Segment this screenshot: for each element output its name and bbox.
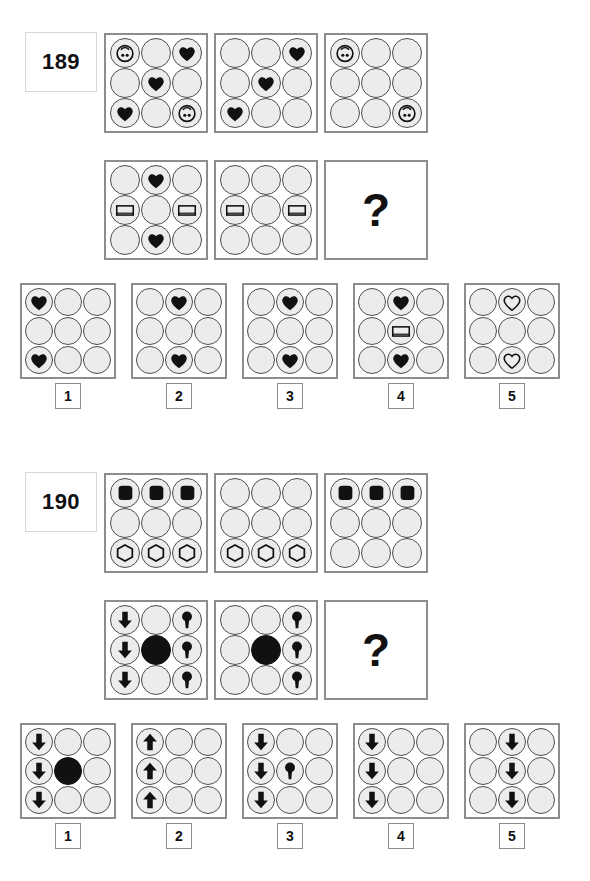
matrix-cell [83, 287, 112, 316]
arrow-down-icon [28, 760, 50, 782]
cell-circle-empty [220, 165, 250, 195]
matrix-cell [109, 38, 140, 68]
matrix-cell [282, 195, 313, 225]
heart-icon [224, 102, 246, 124]
matrix-cell [109, 508, 140, 538]
cell-circle-empty [165, 317, 193, 345]
answer-option-2[interactable] [131, 283, 227, 379]
answer-option-5[interactable] [464, 723, 560, 819]
cell-circle-empty [165, 757, 193, 785]
cell-circle-rect-white [282, 195, 312, 225]
option-number-5[interactable]: 5 [499, 823, 525, 849]
option-number-2[interactable]: 2 [166, 823, 192, 849]
cell-circle-empty [251, 225, 281, 255]
option-number-4[interactable]: 4 [388, 823, 414, 849]
matrix-cell [83, 756, 112, 785]
matrix-cell [172, 665, 203, 695]
cell-circle-empty [361, 538, 391, 568]
cell-circle-heart-white [498, 288, 526, 316]
cell-grid [357, 727, 445, 815]
matrix-cell [194, 287, 223, 316]
option-number-1[interactable]: 1 [55, 823, 81, 849]
cell-circle-empty [358, 288, 386, 316]
cell-circle-empty [282, 478, 312, 508]
answer-option-2[interactable] [131, 723, 227, 819]
answer-option-3[interactable] [242, 283, 338, 379]
answer-option-1[interactable] [20, 283, 116, 379]
matrix-cell [83, 316, 112, 345]
matrix-cell [386, 316, 415, 345]
option-number-3[interactable]: 3 [277, 823, 303, 849]
cell-circle-empty [172, 508, 202, 538]
matrix-panel-r2c1 [104, 160, 208, 260]
answer-option-4[interactable] [353, 723, 449, 819]
option-number-2[interactable]: 2 [166, 383, 192, 409]
matrix-cell [24, 287, 53, 316]
cell-circle-lollipop [282, 605, 312, 635]
cell-circle-empty [83, 786, 111, 814]
cell-circle-empty [54, 317, 82, 345]
cell-circle-hex-white [172, 538, 202, 568]
cell-grid [109, 478, 203, 568]
rectangle-outline-icon [176, 199, 198, 221]
heart-icon [145, 229, 167, 251]
matrix-cell [194, 727, 223, 756]
matrix-cell [392, 68, 423, 98]
cell-circle-empty [361, 38, 391, 68]
cell-circle-disc-black [141, 635, 171, 665]
matrix-cell [275, 727, 304, 756]
matrix-cell [140, 635, 171, 665]
rectangle-outline-icon [390, 320, 412, 342]
matrix-cell [357, 316, 386, 345]
cell-circle-hex-white [220, 538, 250, 568]
matrix-cell [172, 508, 203, 538]
matrix-cell [250, 508, 281, 538]
cell-circle-empty [54, 346, 82, 374]
cell-circle-empty [172, 165, 202, 195]
option-number-3[interactable]: 3 [277, 383, 303, 409]
cell-circle-heart-black [387, 346, 415, 374]
cell-circle-disc-black [54, 757, 82, 785]
matrix-cell [416, 287, 445, 316]
question-mark: ? [362, 627, 390, 673]
matrix-cell [282, 478, 313, 508]
cell-circle-lollipop [172, 635, 202, 665]
cell-circle-empty [469, 786, 497, 814]
arrow-up-icon [139, 789, 161, 811]
answer-option-1[interactable] [20, 723, 116, 819]
option-number-4[interactable]: 4 [388, 383, 414, 409]
rounded-square-icon [114, 482, 136, 504]
matrix-cell [468, 316, 497, 345]
option-number-5[interactable]: 5 [499, 383, 525, 409]
matrix-cell [497, 287, 526, 316]
matrix-cell [357, 287, 386, 316]
hexagon-outline-icon [145, 542, 167, 564]
cell-grid [246, 727, 334, 815]
matrix-cell [109, 538, 140, 568]
matrix-cell [140, 38, 171, 68]
matrix-cell [360, 98, 391, 128]
arrow-up-icon [139, 731, 161, 753]
matrix-cell [172, 538, 203, 568]
cell-circle-empty [136, 346, 164, 374]
matrix-cell [305, 786, 334, 815]
answer-option-5[interactable] [464, 283, 560, 379]
answer-option-3[interactable] [242, 723, 338, 819]
cell-circle-arrow-up [136, 728, 164, 756]
matrix-panel-r1c3 [324, 33, 428, 133]
answer-option-4[interactable] [353, 283, 449, 379]
cell-circle-arrow-down [498, 757, 526, 785]
matrix-cell [527, 287, 556, 316]
cell-circle-empty [110, 225, 140, 255]
cell-grid [246, 287, 334, 375]
matrix-cell [219, 98, 250, 128]
cell-circle-empty [361, 98, 391, 128]
matrix-cell [140, 605, 171, 635]
matrix-cell [53, 346, 82, 375]
matrix-cell [329, 98, 360, 128]
matrix-cell [219, 508, 250, 538]
matrix-cell [329, 68, 360, 98]
matrix-cell [357, 346, 386, 375]
option-number-1[interactable]: 1 [55, 383, 81, 409]
arrow-up-icon [139, 760, 161, 782]
